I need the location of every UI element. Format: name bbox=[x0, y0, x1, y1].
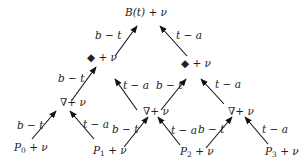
nabla-node-0: ∇+ ν bbox=[60, 97, 86, 108]
diamond-node-0: ◆ + ν bbox=[87, 52, 117, 63]
edge-label-4: b − t bbox=[156, 80, 182, 91]
edge-label-10: b − t bbox=[198, 124, 224, 135]
edge-label-7: t − a bbox=[83, 119, 109, 130]
leaf-node-3: P3 + ν bbox=[265, 146, 299, 159]
edge-label-8: b − t bbox=[112, 124, 138, 135]
edge-label-2: b − t bbox=[58, 73, 84, 84]
edge-label-0: b − t bbox=[95, 30, 121, 41]
edge-label-6: b − t bbox=[17, 120, 43, 131]
edge-label-5: t − a bbox=[215, 79, 241, 90]
edge-label-1: t − a bbox=[176, 30, 202, 41]
edge-label-11: t − a bbox=[262, 124, 288, 135]
tree-diagram: B(t) + ν◆ + ν◆ + ν∇+ ν∇+ ν∇+ νP0 + νP1 +… bbox=[0, 0, 307, 167]
edge-label-9: t − a bbox=[171, 125, 197, 136]
leaf-node-1: P1 + ν bbox=[93, 145, 127, 158]
root-node: B(t) + ν bbox=[125, 7, 167, 18]
nabla-node-1: ∇+ ν bbox=[143, 106, 169, 117]
edge-label-3: t − a bbox=[123, 80, 149, 91]
diamond-node-1: ◆ + ν bbox=[181, 58, 211, 69]
leaf-node-2: P2 + ν bbox=[180, 146, 214, 159]
leaf-node-0: P0 + ν bbox=[14, 142, 48, 155]
nabla-node-2: ∇+ ν bbox=[228, 106, 254, 117]
